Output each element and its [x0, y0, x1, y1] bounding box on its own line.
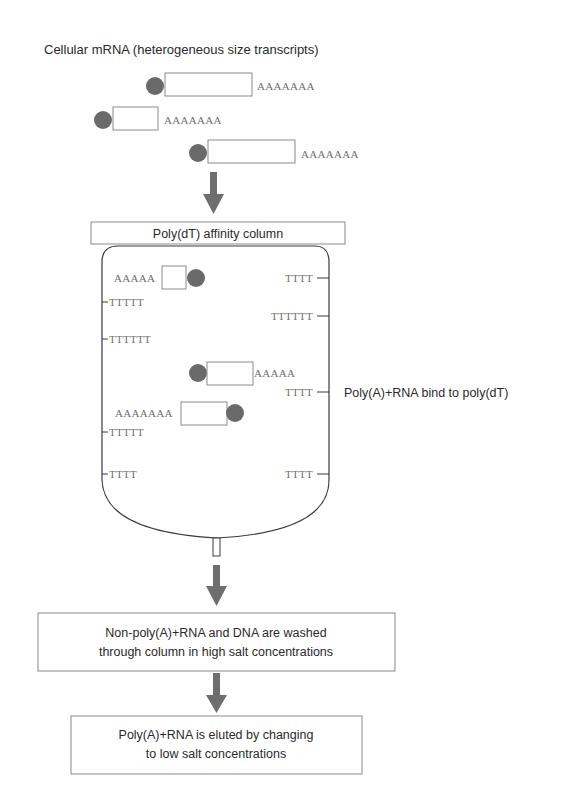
left-oligo-dt: TTTTT: [102, 296, 144, 308]
5-prime-cap-icon: [146, 77, 164, 95]
poly-a-purification-diagram: Cellular mRNA (heterogeneous size transc…: [0, 0, 579, 795]
poly-a-tail: AAAAAAA: [164, 114, 222, 126]
coding-region: [207, 362, 253, 385]
wash-step-line1: Non-poly(A)+RNA and DNA are washed: [105, 626, 326, 640]
5-prime-cap-icon: [94, 111, 112, 129]
coding-region: [113, 107, 158, 130]
svg-text:TTTT: TTTT: [109, 468, 137, 480]
5-prime-cap-icon: [226, 404, 244, 422]
column-outlet: [213, 538, 220, 556]
right-oligo-dt: TTTTTT: [271, 310, 329, 322]
binding-annotation: Poly(A)+RNA bind to poly(dT): [344, 386, 508, 400]
elution-step-line2: to low salt concentrations: [146, 747, 286, 761]
mrna-transcript: AAAAAAA: [94, 107, 222, 130]
poly-a-tail: AAAAA: [254, 367, 295, 379]
coding-region: [208, 140, 295, 163]
down-arrow-icon: [203, 172, 224, 214]
left-oligo-dt: TTTT: [102, 468, 137, 480]
down-arrow-icon: [206, 565, 227, 606]
right-oligo-dt: TTTT: [285, 272, 329, 284]
left-oligo-dt: TTTTT: [102, 426, 144, 438]
svg-text:TTTT: TTTT: [285, 272, 313, 284]
coding-region: [162, 266, 186, 289]
5-prime-cap-icon: [187, 269, 205, 287]
coding-region: [181, 402, 227, 425]
poly-a-tail: AAAAAAA: [115, 407, 173, 419]
svg-text:TTTT: TTTT: [285, 468, 313, 480]
elution-step-box: [71, 716, 362, 774]
5-prime-cap-icon: [189, 144, 207, 162]
svg-text:TTTT: TTTT: [285, 386, 313, 398]
poly-a-tail: AAAAAAA: [257, 80, 315, 92]
svg-text:TTTTTT: TTTTTT: [271, 310, 313, 322]
coding-region: [165, 73, 252, 96]
elution-step-line1: Poly(A)+RNA is eluted by changing: [119, 728, 314, 742]
poly-a-tail: AAAAAAA: [301, 148, 359, 160]
mrna-transcript: AAAAAAA: [146, 73, 315, 96]
svg-text:TTTTT: TTTTT: [109, 426, 144, 438]
svg-text:TTTTT: TTTTT: [109, 296, 144, 308]
poly-a-tail: AAAAA: [114, 272, 155, 284]
bound-mrna-transcript: AAAAAAA: [115, 402, 244, 425]
bound-mrna-transcript: AAAAA: [114, 266, 205, 289]
left-oligo-dt: TTTTTT: [102, 333, 151, 345]
mrna-transcript: AAAAAAA: [189, 140, 359, 163]
right-oligo-dt: TTTT: [285, 468, 329, 480]
wash-step-box: [38, 613, 395, 671]
bound-mrna-transcript: AAAAA: [189, 362, 295, 385]
right-oligo-dt: TTTT: [285, 386, 329, 398]
5-prime-cap-icon: [189, 364, 207, 382]
down-arrow-icon: [206, 673, 227, 713]
column-label: Poly(dT) affinity column: [153, 227, 283, 241]
diagram-title: Cellular mRNA (heterogeneous size transc…: [44, 42, 319, 57]
wash-step-line2: through column in high salt concentratio…: [99, 645, 333, 659]
svg-text:TTTTTT: TTTTTT: [109, 333, 151, 345]
